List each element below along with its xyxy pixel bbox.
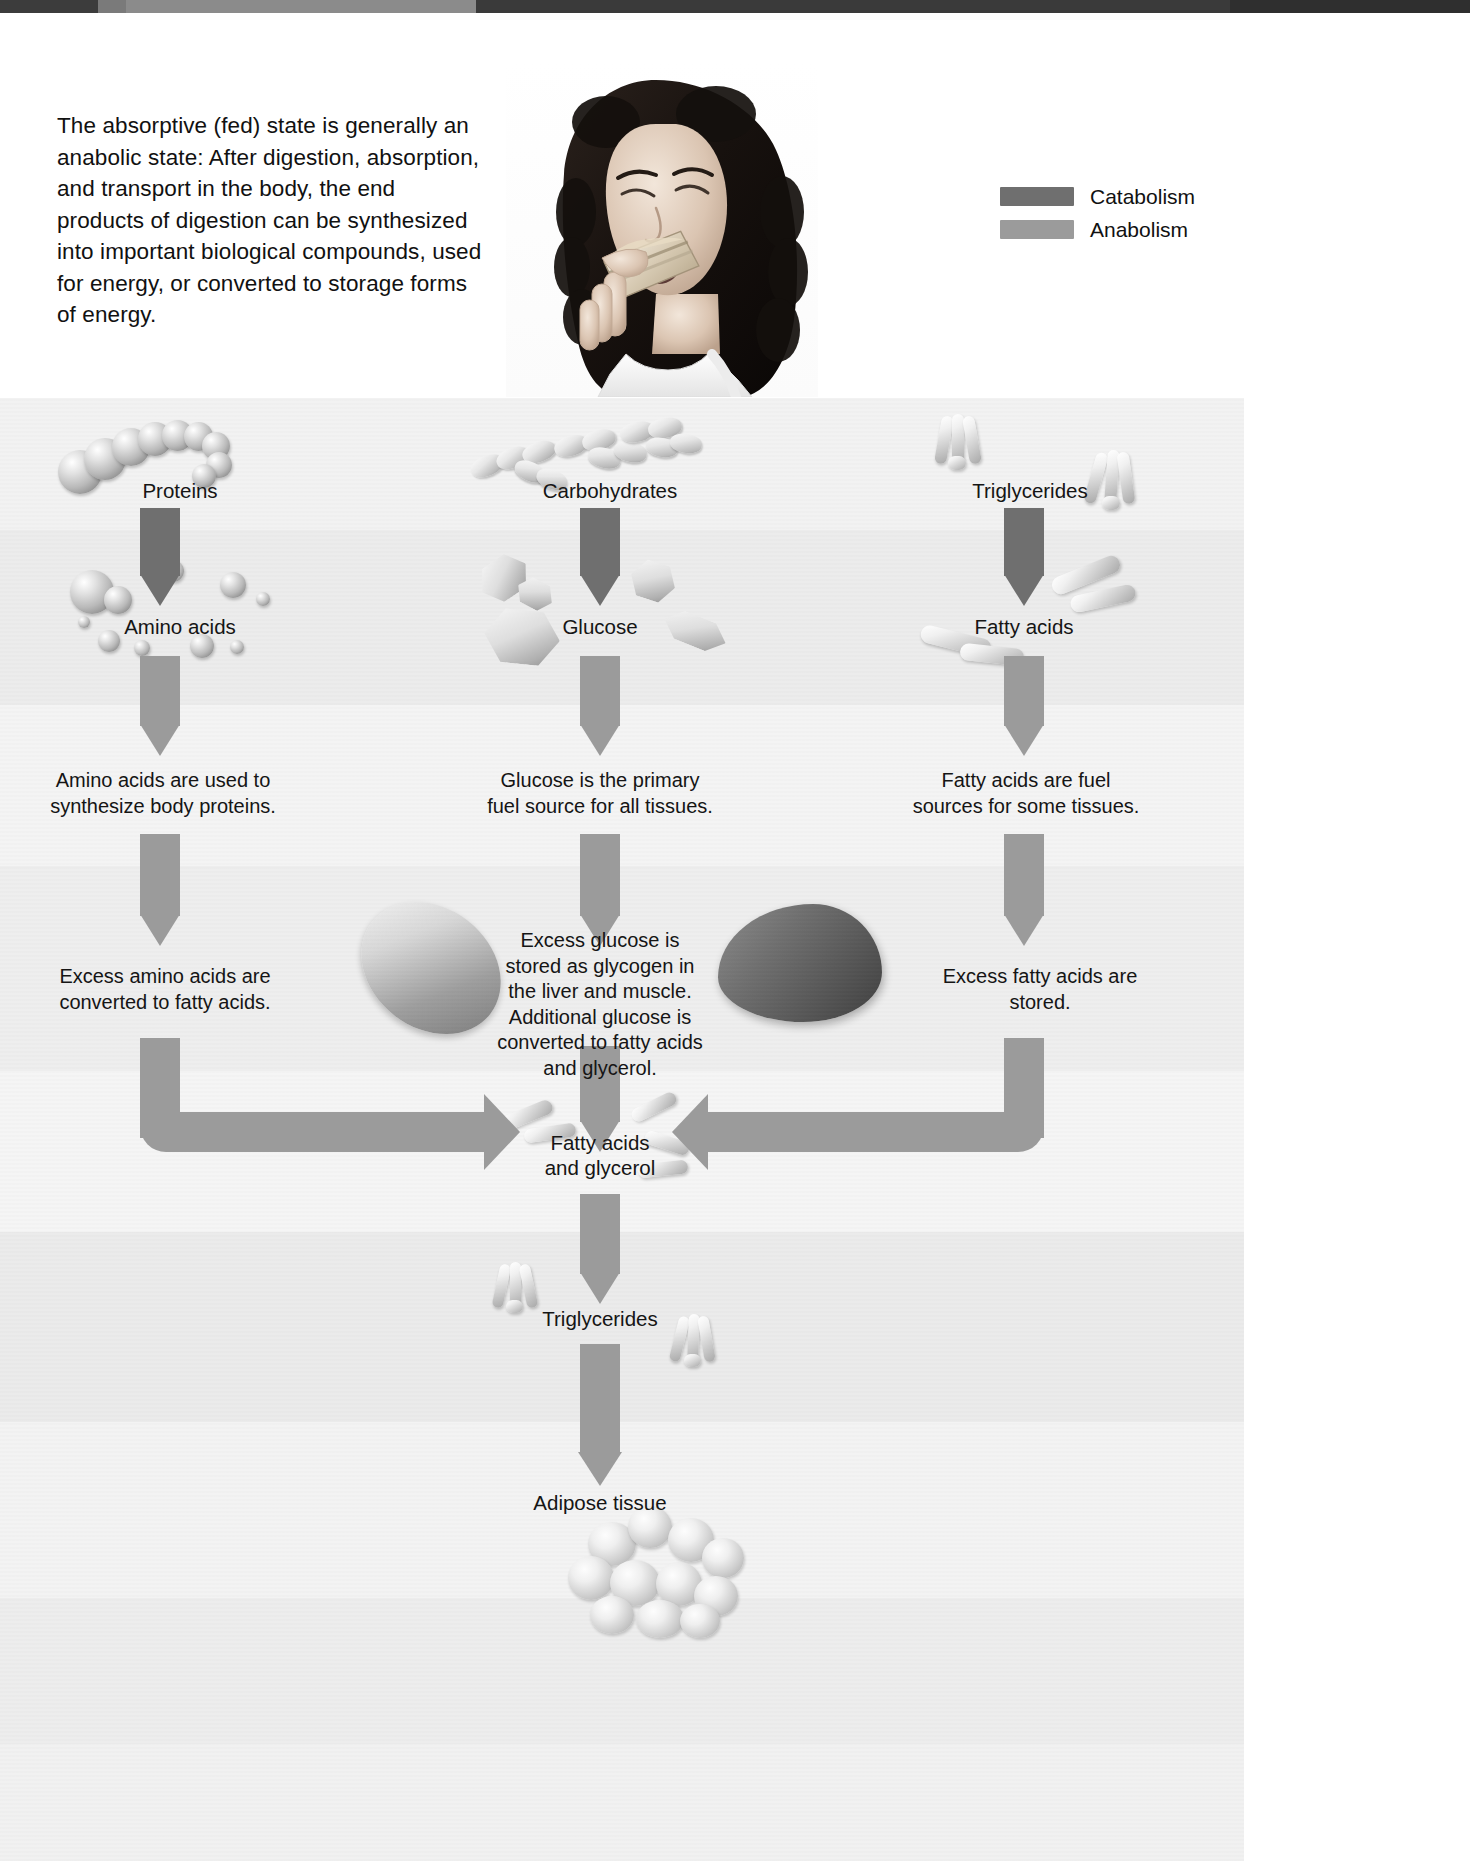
label-triglycerides-top: Triglycerides [930, 478, 1130, 503]
scanner-bar-segment [1230, 0, 1470, 13]
scanner-bar-segment [0, 0, 98, 13]
scanner-bar-segment [98, 0, 126, 13]
arrow-amino-acids-to-use [140, 656, 180, 756]
arrow-glucose-to-use [580, 656, 620, 756]
legend-item-catabolism: Catabolism [1000, 180, 1195, 213]
intro-paragraph: The absorptive (fed) state is generally … [57, 110, 487, 331]
text-fatty-excess: Excess fatty acids are stored. [930, 964, 1150, 1015]
label-carbohydrates: Carbohydrates [510, 478, 710, 503]
arrow-fatty-use-to-excess [1004, 834, 1044, 946]
legend-label-anabolism: Anabolism [1090, 218, 1188, 242]
scanner-edge-bar [0, 0, 1470, 13]
text-amino-excess: Excess amino acids are converted to fatt… [50, 964, 280, 1015]
arrow-fatty-acids-to-use [1004, 656, 1044, 756]
arrow-triglycerides-to-fatty-acids [1004, 508, 1044, 606]
arrow-convergence-to-triglycerides [580, 1194, 620, 1304]
arrow-fatty-excess-to-convergence [660, 1038, 1080, 1168]
legend-label-catabolism: Catabolism [1090, 185, 1195, 209]
text-amino-acid-use: Amino acids are used to synthesize body … [48, 768, 278, 819]
arrow-triglycerides-to-adipose [580, 1344, 620, 1486]
label-fatty-acids-and-glycerol-line2: and glycerol [500, 1155, 700, 1180]
metabolism-flowchart: Proteins Carbohydrates Triglycerides Ami… [0, 398, 1244, 1861]
scanner-bar-segment [476, 0, 1230, 13]
text-glucose-excess: Excess glucose is stored as glycogen in … [492, 928, 708, 1081]
adipose-tissue-art [544, 1500, 784, 1650]
arrow-proteins-to-amino-acids [140, 508, 180, 606]
text-glucose-use: Glucose is the primary fuel source for a… [484, 768, 716, 819]
catabolism-swatch [1000, 187, 1074, 206]
label-fatty-acids: Fatty acids [924, 614, 1124, 639]
label-adipose-tissue: Adipose tissue [500, 1490, 700, 1515]
text-fatty-acid-use: Fatty acids are fuel sources for some ti… [906, 768, 1146, 819]
arrow-amino-excess-to-convergence [0, 1038, 560, 1168]
label-proteins: Proteins [90, 478, 270, 503]
label-fatty-acids-and-glycerol-line1: Fatty acids [500, 1130, 700, 1155]
legend: Catabolism Anabolism [1000, 180, 1195, 246]
photo-illustration [506, 62, 818, 397]
scanner-bar-segment [126, 0, 476, 13]
eating-woman-photo [506, 62, 818, 397]
arrow-carbohydrates-to-glucose [580, 508, 620, 606]
liver-illustration [718, 904, 882, 1022]
label-triglycerides-bottom: Triglycerides [500, 1306, 700, 1331]
legend-item-anabolism: Anabolism [1000, 213, 1195, 246]
label-glucose: Glucose [500, 614, 700, 639]
arrow-amino-use-to-excess [140, 834, 180, 946]
label-amino-acids: Amino acids [70, 614, 290, 639]
anabolism-swatch [1000, 220, 1074, 239]
